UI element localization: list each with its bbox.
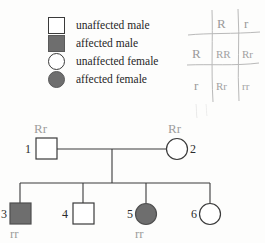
pedigree-diagram: 1 Rr 2 Rr 3 rr 4 5 rr bbox=[0, 104, 265, 243]
punnett-square: R r R r RR Rr Rr rr bbox=[186, 8, 262, 104]
legend-item-label: affected female bbox=[76, 70, 147, 88]
legend-item-label: unaffected male bbox=[76, 16, 150, 34]
affected-male-icon bbox=[48, 35, 65, 52]
affected-female-icon bbox=[48, 71, 65, 88]
punnett-vline-left bbox=[212, 10, 213, 102]
pedigree-worksheet: unaffected male affected male unaffected… bbox=[0, 0, 265, 243]
legend-item-affected-male: affected male bbox=[48, 34, 188, 52]
individual-1-number: 1 bbox=[25, 142, 31, 156]
individual-4-symbol[interactable] bbox=[73, 203, 94, 224]
unaffected-male-icon bbox=[48, 17, 65, 34]
individual-2-number: 2 bbox=[190, 142, 196, 156]
punnett-vline-right bbox=[238, 9, 239, 101]
individual-3-symbol[interactable] bbox=[10, 203, 31, 224]
punnett-cell-1-1: rr bbox=[242, 80, 250, 92]
legend-item-unaffected-male: unaffected male bbox=[48, 16, 188, 34]
punnett-side-allele-1: R bbox=[192, 46, 201, 61]
punnett-cell-1-0: Rr bbox=[216, 80, 227, 92]
individual-3[interactable]: 3 rr bbox=[1, 203, 31, 241]
individual-2-genotype: Rr bbox=[168, 121, 182, 136]
individual-2-symbol[interactable] bbox=[167, 139, 188, 160]
legend-item-unaffected-female: unaffected female bbox=[48, 52, 188, 70]
punnett-cell-0-1: Rr bbox=[242, 48, 253, 60]
individual-1[interactable]: 1 Rr bbox=[25, 121, 57, 159]
individual-4-number: 4 bbox=[62, 207, 68, 221]
punnett-side-allele-2: r bbox=[194, 78, 199, 93]
individual-6-number: 6 bbox=[191, 207, 197, 221]
legend-item-label: affected male bbox=[76, 34, 138, 52]
punnett-top-allele-1: R bbox=[217, 16, 226, 31]
punnett-cell-0-0: RR bbox=[216, 48, 231, 60]
legend: unaffected male affected male unaffected… bbox=[48, 16, 188, 88]
individual-1-symbol[interactable] bbox=[36, 138, 57, 159]
individual-3-genotype: rr bbox=[10, 226, 19, 241]
individual-5-genotype: rr bbox=[135, 226, 144, 241]
punnett-hline-bottom bbox=[187, 63, 259, 65]
individual-4[interactable]: 4 bbox=[62, 203, 94, 224]
unaffected-female-icon bbox=[48, 53, 65, 70]
punnett-hline-top bbox=[188, 32, 260, 35]
legend-item-affected-female: affected female bbox=[48, 70, 188, 88]
individual-5-number: 5 bbox=[127, 207, 133, 221]
individual-3-number: 3 bbox=[1, 207, 7, 221]
legend-item-label: unaffected female bbox=[76, 52, 158, 70]
individual-6[interactable]: 6 bbox=[191, 204, 221, 225]
individual-5-symbol[interactable] bbox=[136, 204, 157, 225]
individual-2[interactable]: 2 Rr bbox=[167, 121, 197, 160]
pencil-smudge bbox=[196, 104, 207, 118]
individual-5[interactable]: 5 rr bbox=[127, 204, 157, 242]
individual-1-genotype: Rr bbox=[34, 121, 48, 136]
individual-6-symbol[interactable] bbox=[200, 204, 221, 225]
punnett-top-allele-2: r bbox=[244, 16, 249, 31]
